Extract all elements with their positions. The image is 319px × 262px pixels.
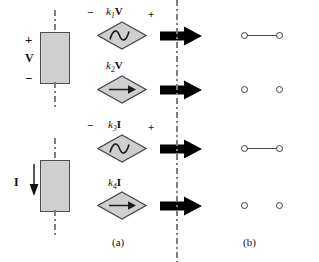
row3-source-label: k3I [108, 118, 121, 133]
row1-source-label: k1V [106, 5, 123, 20]
row3-minus-sign: − [87, 120, 93, 131]
dependent-current-source-k4i [97, 191, 147, 220]
row1-terminal-right [276, 32, 283, 39]
row2-terminal-right [276, 86, 283, 93]
row4-terminal-right [276, 202, 283, 209]
dependent-voltage-source-k3i [97, 134, 147, 163]
row1-short-circuit-wire [247, 35, 278, 36]
vertical-dash-dot-divider [176, 0, 178, 262]
transform-arrow-1 [160, 26, 202, 46]
transform-arrow-2 [160, 80, 202, 100]
voltage-block-bottom-lead [54, 82, 56, 108]
circuit-substitution-figure: + V − I k1V − + [0, 0, 319, 262]
caption-a: (a) [112, 236, 124, 248]
caption-b: (b) [243, 236, 256, 248]
row3-short-circuit-wire [247, 148, 278, 149]
transform-arrow-4 [160, 196, 202, 216]
row3-plus-sign: + [148, 122, 154, 133]
row3-terminal-right [276, 145, 283, 152]
row4-terminal-left [241, 202, 248, 209]
row1-minus-sign: − [87, 7, 93, 18]
current-direction-arrow-icon [28, 163, 40, 197]
transform-arrow-3 [160, 139, 202, 159]
row2-source-label: k2V [106, 59, 123, 74]
voltage-plus-sign: + [25, 33, 32, 46]
row1-plus-sign: + [148, 9, 154, 20]
dependent-current-source-k2v [97, 75, 147, 104]
current-block-top-lead [54, 138, 56, 162]
voltage-quantity-label: V [25, 52, 34, 64]
voltage-minus-sign: − [25, 72, 32, 85]
row4-source-label: k4I [108, 176, 121, 191]
dependent-voltage-source-k1v [97, 21, 147, 50]
current-quantity-label: I [14, 176, 19, 188]
current-block-bottom-lead [54, 210, 56, 236]
voltage-source-box [40, 32, 70, 84]
row2-terminal-left [241, 86, 248, 93]
voltage-block-top-lead [54, 10, 56, 34]
current-source-box [40, 160, 70, 212]
